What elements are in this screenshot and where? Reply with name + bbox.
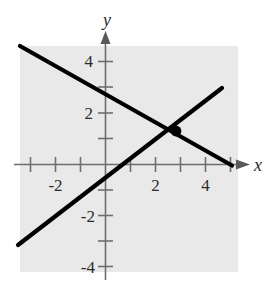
graph-canvas: -2 2 4 4 2 -2 -4 y x	[0, 0, 269, 288]
x-tick-label-neg2: -2	[48, 176, 62, 195]
x-axis-arrow-icon	[236, 160, 250, 170]
intersection-point-marker	[171, 126, 182, 137]
line-graph-figure: -2 2 4 4 2 -2 -4 y x	[0, 0, 269, 288]
y-tick-label-neg2: -2	[81, 207, 95, 226]
x-tick-label-2: 2	[151, 176, 160, 195]
y-tick-label-2: 2	[85, 104, 94, 123]
y-tick-label-4: 4	[85, 52, 94, 71]
x-tick-label-4: 4	[201, 176, 210, 195]
y-tick-label-neg4: -4	[81, 258, 96, 277]
y-axis-label: y	[101, 10, 111, 30]
y-axis-arrow-icon	[101, 31, 111, 44]
x-axis-label: x	[253, 155, 262, 175]
